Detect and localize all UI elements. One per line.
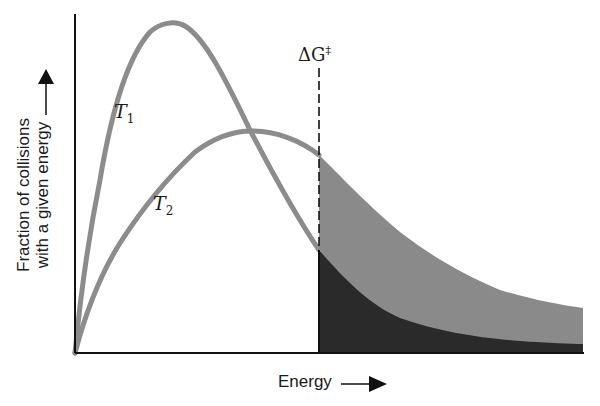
y-axis-label-line2: with a given energy <box>33 118 52 272</box>
y-axis-label: Fraction of collisions with a given ener… <box>3 80 63 310</box>
t2-curve <box>75 131 319 353</box>
x-axis-label: Energy <box>278 372 332 392</box>
y-axis-label-line1: Fraction of collisions <box>14 118 33 272</box>
t1-label: T1 <box>114 100 134 126</box>
t2-label: T2 <box>153 192 173 218</box>
x-axis-label-arrow-icon <box>369 376 387 392</box>
activation-energy-label: ΔG‡ <box>298 44 331 65</box>
t1-curve <box>75 23 319 353</box>
